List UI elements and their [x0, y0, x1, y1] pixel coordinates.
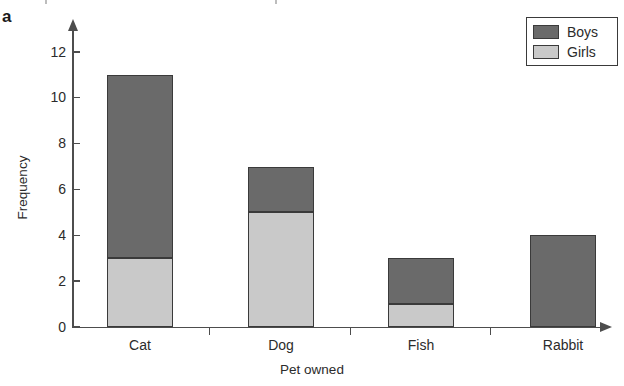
y-tick-label-10-wrap: 10	[28, 90, 66, 104]
y-tick-label-4: 4	[36, 228, 66, 242]
figure: a 0 2 4 6 8 10 12	[0, 0, 624, 386]
y-tick-label-10: 10	[36, 90, 66, 104]
y-tick-2	[73, 280, 80, 281]
y-tick-label-8: 8	[36, 136, 66, 150]
y-axis-line	[72, 30, 74, 328]
x-category-label-cat: Cat	[85, 338, 195, 352]
y-axis-arrow-icon	[68, 19, 78, 31]
y-tick-label-6-wrap: 6	[28, 182, 66, 196]
x-tick-3	[490, 328, 491, 335]
y-tick-label-0: 0	[36, 320, 66, 334]
y-tick-8	[73, 143, 80, 144]
bar-segment-cat-boys	[107, 75, 173, 258]
legend-swatch-boys-icon	[533, 25, 559, 39]
bar-segment-dog-girls	[248, 212, 314, 327]
y-tick-0	[73, 326, 80, 327]
y-tick-label-4-wrap: 4	[28, 228, 66, 242]
legend-entry-boys: Boys	[533, 23, 598, 40]
y-tick-label-8-wrap: 8	[28, 136, 66, 150]
bar-segment-cat-girls	[107, 258, 173, 327]
x-axis-title: Pet owned	[0, 362, 624, 377]
bar-segment-fish-boys	[388, 258, 454, 304]
legend-label-girls: Girls	[567, 45, 596, 59]
scan-artifact-left	[45, 0, 47, 4]
x-category-label-rabbit: Rabbit	[508, 338, 618, 352]
x-category-label-fish: Fish	[366, 338, 476, 352]
x-tick-2	[350, 328, 351, 335]
x-tick-1	[209, 328, 210, 335]
y-tick-4	[73, 235, 80, 236]
y-tick-10	[73, 97, 80, 98]
y-tick-12	[73, 51, 80, 52]
y-tick-label-6: 6	[36, 182, 66, 196]
legend-entry-girls: Girls	[533, 43, 596, 60]
bar-segment-rabbit-boys	[530, 235, 596, 327]
y-tick-label-0-wrap: 0	[28, 320, 66, 334]
bar-segment-fish-girls	[388, 304, 454, 327]
y-tick-label-2: 2	[36, 274, 66, 288]
x-axis-arrow-icon	[600, 322, 612, 332]
y-tick-label-12-wrap: 12	[28, 45, 66, 59]
legend: Boys Girls	[526, 17, 618, 66]
y-tick-6	[73, 189, 80, 190]
scan-artifact-mid	[275, 0, 277, 4]
y-tick-label-2-wrap: 2	[28, 274, 66, 288]
bar-segment-dog-boys	[248, 167, 314, 213]
y-axis-title: Frequency	[15, 133, 30, 243]
legend-swatch-girls-icon	[533, 45, 559, 59]
y-tick-label-12: 12	[36, 45, 66, 59]
x-category-label-dog: Dog	[226, 338, 336, 352]
legend-label-boys: Boys	[567, 25, 598, 39]
